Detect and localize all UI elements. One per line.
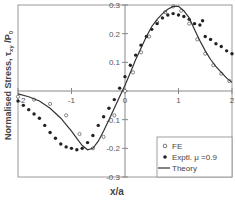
series-exptl-point	[166, 13, 169, 16]
x-tick-label: 2	[230, 96, 235, 105]
series-fe-point	[188, 22, 191, 25]
series-exptl-point	[204, 35, 207, 38]
series-fe-point	[113, 114, 116, 117]
series-exptl-point	[32, 112, 35, 115]
series-exptl-point	[161, 16, 164, 19]
series-fe-point	[16, 95, 19, 98]
y-tick-label: 0.1	[109, 58, 121, 67]
legend-exptl-marker	[163, 155, 167, 159]
series-exptl-point	[22, 104, 25, 107]
legend-fe-label: FE	[172, 142, 182, 151]
y-tick-label: -0.2	[106, 144, 120, 153]
series-exptl-point	[59, 142, 62, 145]
legend-theory-label: Theory	[172, 164, 197, 173]
series-exptl-point	[214, 42, 217, 45]
y-axis-title-main: Normalised Stress, τ	[3, 52, 13, 140]
series-exptl-point	[70, 147, 73, 150]
x-axis-title: x/a	[110, 186, 124, 197]
series-exptl-point	[113, 98, 116, 101]
series-exptl-point	[118, 86, 121, 89]
y-axis-title-sub2: 0	[8, 30, 14, 34]
series-exptl-point	[64, 145, 67, 148]
series-exptl-point	[38, 117, 41, 120]
x-tick-label: -1	[68, 96, 76, 105]
series-exptl-point	[123, 75, 126, 78]
series-exptl-point	[198, 23, 201, 26]
y-tick-label: 0.3	[109, 1, 121, 10]
x-tick-label: 1	[176, 96, 181, 105]
series-exptl-point	[16, 99, 19, 102]
series-exptl-point	[193, 22, 196, 25]
series-fe-point	[131, 71, 134, 74]
series-exptl-point	[102, 115, 105, 118]
series-exptl-point	[97, 124, 100, 127]
legend-exptl-label: Exptl. μ =0.9	[172, 153, 217, 162]
x-tick-label: 0	[123, 96, 128, 105]
series-exptl-point	[155, 22, 158, 25]
series-fe-point	[65, 114, 68, 117]
y-axis-title-after: /P	[3, 34, 13, 45]
series-exptl-point	[86, 141, 89, 144]
series-exptl-point	[107, 107, 110, 110]
series-exptl-point	[201, 19, 204, 22]
series-exptl-point	[177, 13, 180, 16]
series-exptl-point	[225, 49, 228, 52]
series-fe-point	[78, 132, 81, 135]
series-exptl-point	[129, 63, 132, 66]
series-exptl-point	[27, 108, 30, 111]
series-fe-point	[123, 89, 126, 92]
series-exptl-point	[75, 148, 78, 151]
series-exptl-point	[182, 15, 185, 18]
y-tick-label: -0.3	[106, 173, 120, 182]
series-exptl-point	[230, 52, 233, 55]
legend: FE Exptl. μ =0.9 Theory	[157, 137, 232, 177]
series-exptl-point	[171, 12, 174, 15]
series-exptl-point	[209, 38, 212, 41]
series-exptl-point	[54, 137, 57, 140]
legend-fe-marker	[163, 144, 167, 148]
series-fe-point	[102, 135, 105, 138]
series-exptl-point	[48, 131, 51, 134]
stress-chart: -2-1012 -0.3-0.2-0.10.10.20.3 Normalised…	[0, 0, 235, 200]
series-fe-point	[49, 102, 52, 105]
y-axis-title: Normalised Stress, τxy /P0	[3, 30, 14, 140]
series-exptl-point	[43, 124, 46, 127]
y-tick-label: 0.2	[109, 30, 121, 39]
series-exptl-point	[220, 45, 223, 48]
series-exptl-point	[91, 134, 94, 137]
